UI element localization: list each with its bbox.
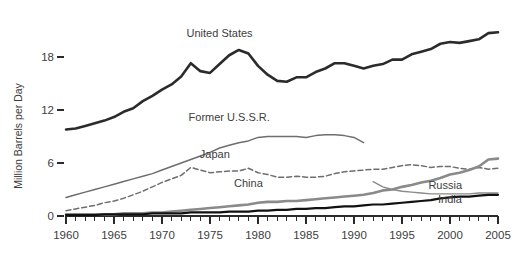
x-tick-label-1990: 1990 (341, 229, 367, 241)
series-line-united-states (66, 32, 498, 129)
chart-canvas: Million Barrels per Day 061218 196019651… (0, 0, 529, 255)
x-tick-label-1980: 1980 (245, 229, 271, 241)
y-tick-label-18: 18 (41, 51, 54, 63)
y-tick-label-6: 6 (48, 157, 54, 169)
series-label-russia: Russia (428, 179, 463, 191)
x-tick-label-1960: 1960 (53, 229, 79, 241)
y-axis-title: Million Barrels per Day (12, 82, 24, 188)
y-tick-label-12: 12 (41, 104, 54, 116)
x-tick-label-1965: 1965 (101, 229, 127, 241)
y-axis-title-group: Million Barrels per Day (12, 82, 24, 188)
series-line-former-u-s-s-r (66, 135, 364, 198)
oil-consumption-line-chart: Million Barrels per Day 061218 196019651… (0, 0, 529, 255)
series-label-china: China (234, 177, 264, 189)
x-tick-label-1995: 1995 (389, 229, 415, 241)
series-label-japan: Japan (200, 148, 230, 160)
x-tick-label-2005: 2005 (485, 229, 511, 241)
series-label-united-states: United States (187, 27, 254, 39)
y-axis-ticks: 061218 (41, 51, 64, 222)
y-tick-label-0: 0 (48, 210, 54, 222)
series-labels: United StatesFormer U.S.S.R.JapanChinaRu… (187, 27, 463, 206)
x-tick-label-1975: 1975 (197, 229, 223, 241)
x-tick-label-2000: 2000 (437, 229, 463, 241)
x-tick-label-1970: 1970 (149, 229, 175, 241)
x-axis-ticks: 1960196519701975198019851990199520002005 (53, 216, 511, 241)
series-label-former-u-s-s-r: Former U.S.S.R. (189, 111, 270, 123)
series-label-india: India (438, 193, 463, 205)
x-tick-label-1985: 1985 (293, 229, 319, 241)
